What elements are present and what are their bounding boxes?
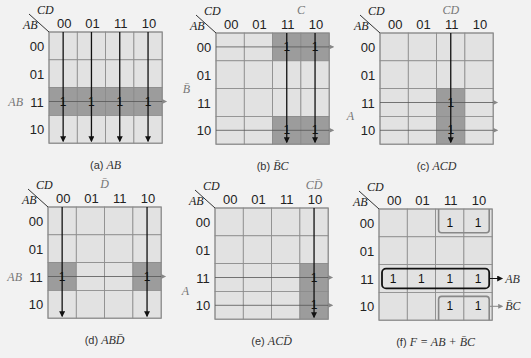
col-label: 10 [142, 16, 156, 31]
kmap-cell [76, 235, 104, 263]
group-label: B̄C [505, 299, 521, 313]
row-label: 01 [197, 68, 211, 83]
row-variable-label: AB [22, 18, 38, 32]
kmap-cell [379, 209, 407, 237]
top-group-label: D̄ [99, 177, 109, 191]
row-label: 01 [196, 243, 210, 258]
row-label: 00 [30, 39, 44, 54]
row-label: 01 [360, 244, 374, 259]
kmap-cell [215, 208, 243, 236]
kmap-cell [407, 292, 435, 320]
cell-value-one: 1 [311, 271, 318, 285]
cell-value-one: 1 [312, 40, 319, 54]
top-group-label: C [297, 3, 306, 17]
caption-expression: F = AB + B̄C [409, 335, 476, 349]
row-label: 11 [361, 96, 375, 111]
caption-expression: ABD̄ [100, 333, 125, 347]
kmap-cell [379, 237, 407, 265]
col-variable-label: CD [367, 180, 384, 194]
row-label: 10 [361, 123, 375, 138]
kmap-cell [272, 236, 300, 264]
kmap-a: CDAB0001111000011110AB1111(a) AB [7, 3, 166, 172]
row-label: 00 [196, 215, 210, 230]
kmap-cell [465, 33, 493, 61]
cell-value-one: 1 [312, 123, 319, 137]
row-variable-label: AB [188, 194, 204, 208]
row-label: 11 [29, 270, 43, 285]
cell-value-one: 1 [475, 272, 482, 286]
map-caption: (b) B̄C [257, 159, 290, 173]
row-label: 01 [30, 67, 44, 82]
cell-value-one: 1 [311, 298, 318, 312]
kmap-cell [243, 236, 271, 264]
cell-value-one: 1 [145, 95, 152, 109]
col-label: 10 [472, 193, 486, 208]
kmap-cell [215, 236, 243, 264]
col-label: 11 [445, 17, 459, 32]
map-caption: (f) F = AB + B̄C [396, 335, 476, 349]
col-label: 01 [85, 16, 99, 31]
kmap-c: CDAB0001111000011110CDA11(c) ACD [346, 3, 498, 173]
col-label: 01 [415, 193, 429, 208]
kmap-cell [436, 237, 464, 265]
cell-value-one: 1 [447, 123, 454, 137]
col-label: 00 [223, 192, 237, 207]
row-label: 10 [197, 123, 211, 138]
kmap-cell [464, 237, 492, 265]
map-caption: (d) ABD̄ [85, 333, 125, 347]
kmap-cell [380, 61, 408, 89]
cell-value-one: 1 [88, 95, 95, 109]
row-label: 10 [30, 122, 44, 137]
cell-value-one: 1 [59, 270, 66, 284]
row-label: 10 [196, 298, 210, 313]
row-label: 00 [361, 40, 375, 55]
kmap-cell [408, 33, 436, 61]
kmap-cell [380, 33, 408, 61]
caption-expression: AB [106, 158, 122, 172]
map-caption: (c) ACD [417, 159, 457, 173]
col-label: 11 [280, 192, 294, 207]
cell-value-one: 1 [390, 272, 397, 286]
kmap-d: CDAB0001111000011110D̄AB11(d) ABD̄ [6, 177, 165, 347]
row-variable-label: AB [21, 193, 37, 207]
col-label: 10 [473, 17, 487, 32]
col-label: 00 [57, 16, 71, 31]
col-label: 11 [113, 191, 127, 206]
row-label: 11 [30, 95, 44, 110]
kmap-cell [76, 290, 104, 318]
caption-prefix: (a) [90, 159, 107, 171]
row-variable-label: AB [189, 19, 205, 33]
row-label: 11 [196, 271, 210, 286]
row-label: 01 [29, 242, 43, 257]
row-label: 10 [29, 297, 43, 312]
caption-expression: ACD [432, 159, 457, 173]
kmap-cell [407, 237, 435, 265]
kmap-cell [272, 208, 300, 236]
cell-value-one: 1 [418, 272, 425, 286]
side-group-label: B̄ [183, 82, 191, 96]
col-variable-label: CD [36, 178, 53, 192]
col-label: 11 [114, 16, 128, 31]
kmap-b: CDAB0001111000011110CB̄1111(b) B̄C [183, 3, 334, 173]
map-caption: (a) AB [90, 158, 122, 172]
kmap-cell [76, 207, 104, 235]
row-variable-label: AB [353, 19, 369, 33]
group-label: AB [504, 272, 520, 286]
caption-prefix: (f) [396, 336, 409, 348]
top-group-label: CD [442, 3, 459, 17]
col-label: 10 [309, 17, 323, 32]
kmap-cell [216, 61, 244, 89]
cell-value-one: 1 [116, 95, 123, 109]
col-label: 10 [308, 192, 322, 207]
side-group-label: A [181, 284, 190, 298]
top-group-label: CD̄ [306, 178, 323, 192]
cell-value-one: 1 [446, 216, 453, 230]
row-label: 10 [360, 299, 374, 314]
col-variable-label: CD [204, 4, 221, 18]
col-label: 00 [224, 17, 238, 32]
kmap-cell [408, 61, 436, 89]
kmap-figure: CDAB0001111000011110AB1111(a) ABCDAB0001… [0, 0, 531, 358]
kmap-cell [105, 290, 133, 318]
kmap-cell [244, 89, 272, 117]
col-label: 11 [444, 193, 458, 208]
